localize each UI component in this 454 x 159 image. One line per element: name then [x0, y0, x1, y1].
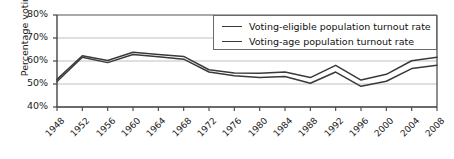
series-line-voting-age [57, 55, 437, 87]
legend-item-voting-age: Voting-age population turnout rate [222, 34, 414, 48]
legend: Voting-eligible population turnout rate … [213, 15, 437, 50]
legend-item-voting-eligible: Voting-eligible population turnout rate [222, 19, 431, 33]
legend-label: Voting-age population turnout rate [249, 36, 414, 47]
legend-line-icon [222, 26, 242, 27]
legend-label: Voting-eligible population turnout rate [249, 21, 431, 32]
turnout-line-chart: Percentage voting 40%50%60%70%80% 194819… [0, 0, 454, 159]
legend-line-icon [222, 41, 242, 42]
